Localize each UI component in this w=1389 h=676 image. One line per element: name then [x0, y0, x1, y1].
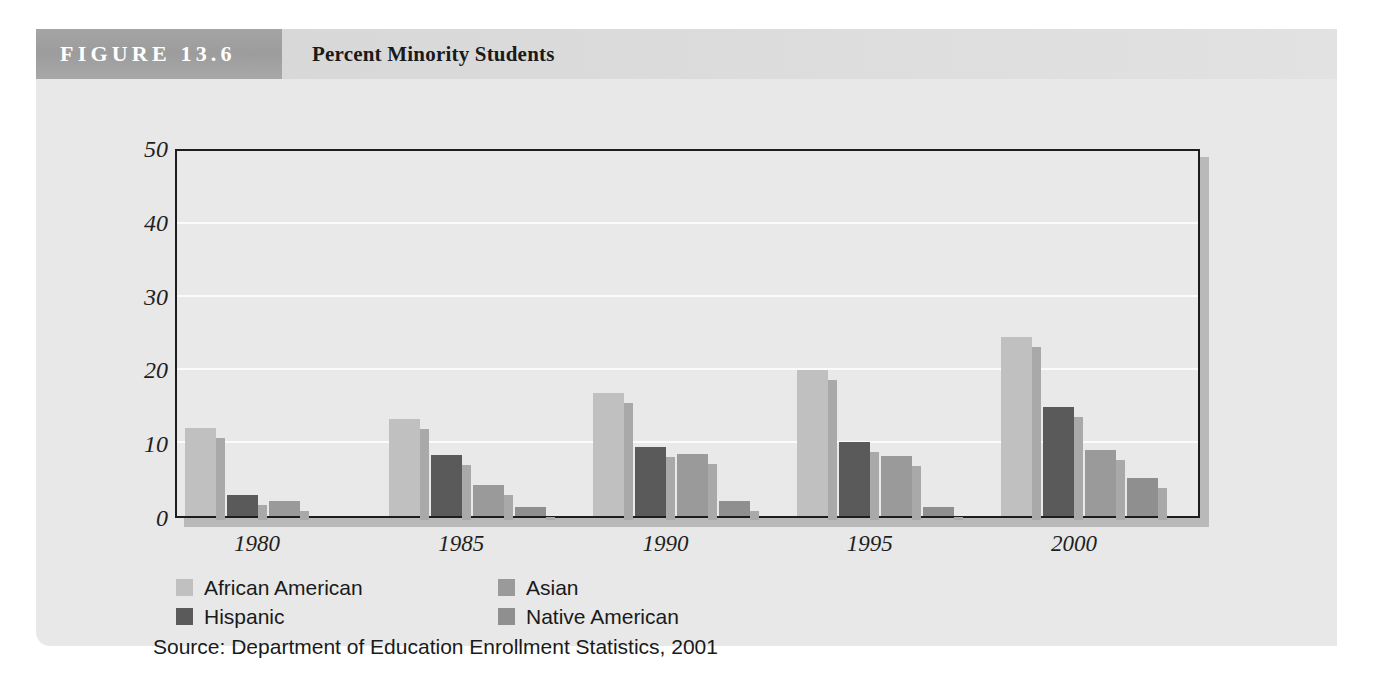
legend-label: Asian [526, 576, 579, 600]
bar [1001, 337, 1032, 516]
figure-title-block: Percent Minority Students [282, 29, 1337, 79]
bar-body [1085, 450, 1116, 516]
bar-shadow [462, 465, 471, 520]
bar [677, 454, 708, 516]
bar-body [1043, 407, 1074, 516]
bar-body [593, 393, 624, 516]
legend-label: Native American [526, 605, 679, 629]
bar-body [797, 370, 828, 516]
bar-body [881, 456, 912, 516]
bar-body [473, 485, 504, 516]
bar-shadow [1158, 488, 1167, 520]
bar [1127, 478, 1158, 516]
bar-shadow [828, 380, 837, 520]
bar-shadow [1032, 347, 1041, 520]
figure-panel: FIGURE 13.6 Percent Minority Students 01… [36, 29, 1337, 646]
bar [797, 370, 828, 516]
y-tick-label: 20 [144, 357, 168, 384]
bar [593, 393, 624, 516]
bar-shadow [504, 495, 513, 520]
bar-body [1127, 478, 1158, 516]
legend-row: African AmericanAsian [176, 573, 796, 602]
bar-body [431, 455, 462, 516]
bar [1043, 407, 1074, 516]
x-tick-label: 1985 [438, 531, 484, 557]
bar-group [593, 151, 750, 516]
bar [839, 442, 870, 516]
x-tick-label: 1990 [643, 531, 689, 557]
bar-body [719, 501, 750, 516]
bar-body [269, 501, 300, 516]
y-tick-label: 40 [144, 209, 168, 236]
bar [881, 456, 912, 516]
bar [389, 419, 420, 516]
bar [635, 447, 666, 516]
bar-shadow [258, 505, 267, 520]
y-tick-label: 30 [144, 283, 168, 310]
chart-area: 01020304050 19801985199019952000 African… [36, 79, 1337, 646]
bar-body [227, 495, 258, 516]
x-tick-label: 1980 [234, 531, 280, 557]
bar-body [515, 507, 546, 516]
bar-shadow [420, 429, 429, 520]
bar-body [185, 428, 216, 516]
bar-group [797, 151, 954, 516]
bar [227, 495, 258, 516]
bar-shadow [666, 457, 675, 520]
bar-body [389, 419, 420, 516]
legend-swatch [176, 608, 193, 625]
bar-group [389, 151, 546, 516]
legend-swatch [498, 608, 515, 625]
bar-body [635, 447, 666, 516]
bar [515, 507, 546, 516]
figure-title: Percent Minority Students [312, 42, 555, 67]
figure-number-block: FIGURE 13.6 [36, 29, 282, 79]
bar [473, 485, 504, 516]
bar [923, 507, 954, 516]
legend-swatch [498, 579, 515, 596]
bars-layer [177, 151, 1198, 516]
x-axis: 19801985199019952000 [177, 531, 1198, 565]
bar-shadow [624, 403, 633, 520]
chart-legend: African AmericanAsianHispanicNative Amer… [176, 573, 796, 631]
bar-shadow [954, 517, 963, 520]
bar [719, 501, 750, 516]
legend-entry: African American [176, 576, 498, 600]
bar-shadow [870, 452, 879, 520]
source-note: Source: Department of Education Enrollme… [153, 635, 718, 659]
bar [1085, 450, 1116, 516]
bar-group [1001, 151, 1158, 516]
legend-swatch [176, 579, 193, 596]
bar-shadow [546, 517, 555, 520]
y-tick-label: 10 [144, 431, 168, 458]
y-tick-label: 50 [144, 136, 168, 163]
bar-shadow [1116, 460, 1125, 520]
y-tick-label: 0 [156, 505, 168, 532]
bar-shadow [1074, 417, 1083, 520]
x-tick-label: 1995 [847, 531, 893, 557]
bar-body [923, 507, 954, 516]
bar [431, 455, 462, 516]
bar-body [1001, 337, 1032, 516]
bar-shadow [300, 511, 309, 520]
plot-frame-shadow-bottom [184, 518, 1209, 527]
legend-row: HispanicNative American [176, 602, 796, 631]
bar-body [677, 454, 708, 516]
bar [269, 501, 300, 516]
bar-shadow [708, 464, 717, 520]
y-axis: 01020304050 [108, 149, 168, 518]
legend-entry: Native American [498, 605, 679, 629]
bar [185, 428, 216, 516]
legend-label: African American [204, 576, 363, 600]
legend-entry: Hispanic [176, 605, 498, 629]
bar-shadow [216, 438, 225, 520]
bar-body [839, 442, 870, 516]
figure-header: FIGURE 13.6 Percent Minority Students [36, 29, 1337, 79]
legend-entry: Asian [498, 576, 579, 600]
figure-number-label: FIGURE 13.6 [60, 41, 236, 67]
bar-shadow [750, 511, 759, 520]
bar-shadow [912, 466, 921, 520]
x-tick-label: 2000 [1051, 531, 1097, 557]
bar-group [185, 151, 342, 516]
legend-label: Hispanic [204, 605, 285, 629]
